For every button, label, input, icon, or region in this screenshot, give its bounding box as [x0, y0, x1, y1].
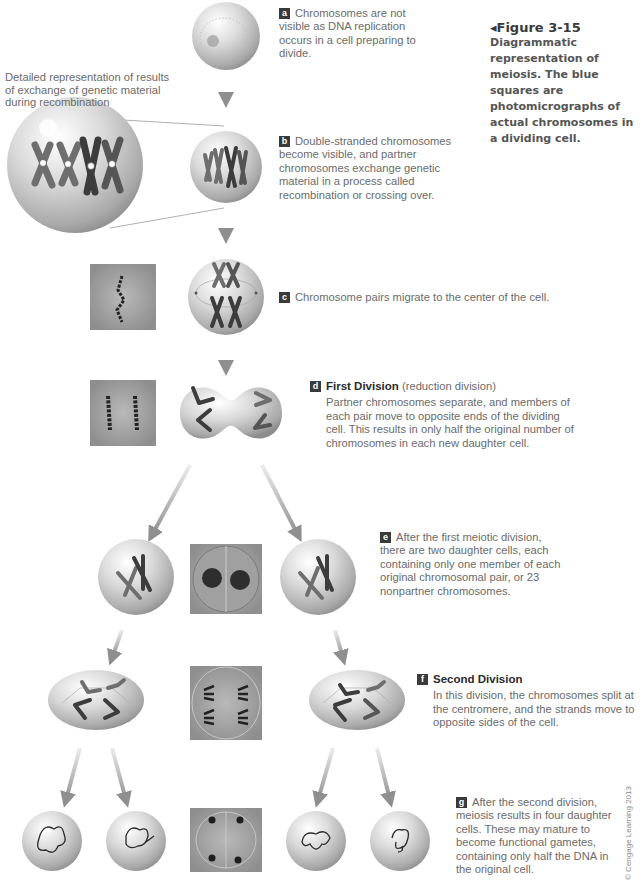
- arrow-d-to-e-right: [262, 465, 298, 535]
- step-b: bDouble-stranded chromosomes become visi…: [279, 135, 459, 202]
- arrow-f-to-g-1: [66, 748, 80, 800]
- cell-g-4: [370, 811, 430, 871]
- step-d-title: First Division: [326, 380, 399, 392]
- arrow-e-to-f-left: [112, 630, 122, 658]
- arrow-f-to-g-3: [318, 748, 333, 800]
- micrograph-e: [190, 544, 262, 614]
- step-g-text: After the second division, meiosis resul…: [456, 796, 611, 875]
- step-badge-g: g: [456, 797, 467, 808]
- step-f-text: In this division, the chromosomes split …: [417, 689, 637, 729]
- step-badge-f: f: [417, 674, 428, 685]
- recombination-side-note: Detailed representation of results of ex…: [5, 71, 175, 109]
- recombination-detail-cell: [7, 97, 143, 233]
- arrow-e-to-f-right: [335, 630, 343, 658]
- cell-b: [190, 131, 262, 203]
- cell-f-right: [309, 670, 405, 730]
- step-f: fSecond Division In this division, the c…: [417, 673, 637, 730]
- step-c: cChromosome pairs migrate to the center …: [279, 291, 579, 304]
- step-c-text: Chromosome pairs migrate to the center o…: [295, 291, 549, 303]
- copyright-notice: © Cengage Learning 2013: [624, 786, 633, 880]
- cell-g-2: [106, 811, 166, 871]
- step-badge-e: e: [380, 532, 391, 543]
- step-e-text: After the first meiotic division, there …: [380, 531, 560, 597]
- step-d-text: Partner chromosomes separate, and member…: [310, 396, 580, 450]
- figure-caption: Diagrammatic representation of meiosis. …: [490, 35, 644, 147]
- cell-c: [188, 259, 264, 335]
- cell-g-1: [22, 811, 82, 871]
- micrograph-f: [190, 666, 262, 740]
- cell-a: [192, 2, 260, 70]
- cell-g-3: [286, 811, 346, 871]
- step-badge-d: d: [310, 381, 321, 392]
- step-d: dFirst Division (reduction division) Par…: [310, 380, 580, 450]
- step-g: gAfter the second division, meiosis resu…: [456, 796, 616, 876]
- arrow-f-to-g-4: [377, 748, 390, 800]
- step-badge-a: a: [279, 8, 290, 19]
- step-e: eAfter the first meiotic division, there…: [380, 531, 565, 598]
- cell-e-right: [280, 539, 356, 615]
- step-a-text: Chromosomes are not visible as DNA repli…: [279, 7, 416, 59]
- micrograph-d: [90, 380, 156, 446]
- step-f-title: Second Division: [433, 673, 522, 685]
- figure-number: Figure 3-15: [497, 20, 581, 35]
- arrow-d-to-e-left: [152, 465, 190, 535]
- cell-f-left: [48, 670, 144, 730]
- micrograph-g: [190, 808, 262, 872]
- step-a: aChromosomes are not visible as DNA repl…: [279, 7, 439, 61]
- step-d-subtitle: (reduction division): [402, 380, 496, 392]
- cell-e-left: [98, 539, 174, 615]
- step-badge-c: c: [279, 292, 290, 303]
- micrograph-c: [90, 264, 156, 330]
- figure-title: ◂Figure 3-15: [490, 20, 644, 35]
- step-b-text: Double-stranded chromosomes become visib…: [279, 135, 451, 201]
- figure-caption-block: ◂Figure 3-15 Diagrammatic representation…: [490, 20, 644, 147]
- arrow-f-to-g-2: [112, 748, 126, 800]
- step-badge-b: b: [279, 136, 290, 147]
- cell-d-dividing: [180, 387, 282, 438]
